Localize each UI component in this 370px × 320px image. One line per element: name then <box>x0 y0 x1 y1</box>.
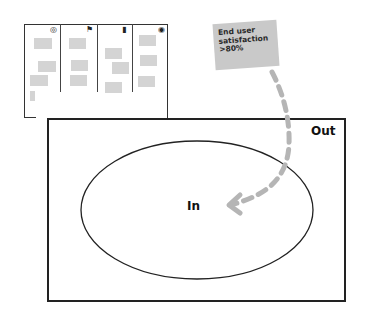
dashed-arrow <box>234 72 289 204</box>
diagram-overlay <box>0 0 370 320</box>
in-label: In <box>187 199 200 213</box>
